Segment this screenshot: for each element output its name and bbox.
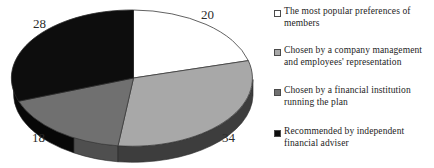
pie-chart-figure: 20 34 18 28 The most popular preferences…	[0, 0, 434, 168]
square-lightgray-icon	[274, 49, 281, 56]
pie-value-label-most-popular-preferences: 20	[201, 8, 214, 21]
legend-label-company-management: Chosen by a company management and emplo…	[284, 45, 432, 68]
chart-legend: The most popular preferences of members …	[274, 0, 434, 168]
square-open-icon	[274, 10, 281, 17]
legend-item-most-popular-preferences[interactable]: The most popular preferences of members	[274, 6, 432, 29]
pie-value-label-recommended-adviser: 28	[33, 17, 46, 30]
legend-label-financial-institution: Chosen by a financial institution runnin…	[284, 85, 432, 108]
legend-item-company-management[interactable]: Chosen by a company management and emplo…	[274, 45, 432, 68]
legend-label-recommended-adviser: Recommended by independent financial adv…	[284, 126, 432, 149]
square-black-icon	[274, 130, 281, 137]
legend-item-recommended-adviser[interactable]: Recommended by independent financial adv…	[274, 126, 432, 149]
legend-label-most-popular-preferences: The most popular preferences of members	[284, 6, 432, 29]
pie-value-label-company-management: 34	[222, 131, 235, 144]
pie-chart-plot-area: 20 34 18 28	[0, 0, 268, 168]
pie-value-label-financial-institution: 18	[32, 131, 45, 144]
square-darkgray-icon	[274, 89, 281, 96]
legend-item-financial-institution[interactable]: Chosen by a financial institution runnin…	[274, 85, 432, 108]
